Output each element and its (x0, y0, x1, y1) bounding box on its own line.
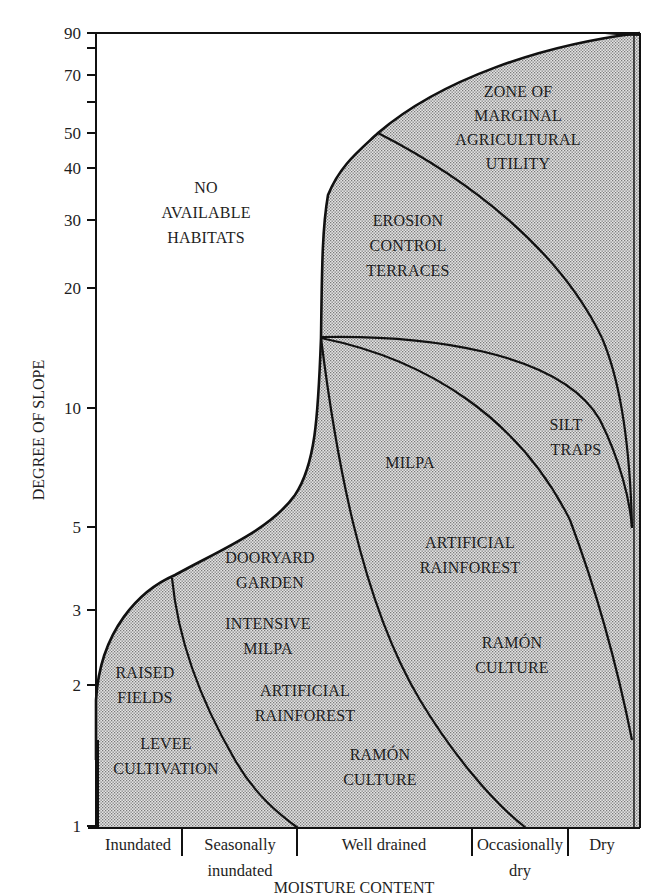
svg-text:CULTURE: CULTURE (343, 771, 417, 788)
region-erosion-control-terraces: EROSION CONTROL TERRACES (366, 212, 449, 279)
x-cat-seasonally-inundated-2: inundated (207, 861, 273, 880)
y-tick-90: 90 (64, 24, 81, 43)
svg-text:MILPA: MILPA (385, 454, 435, 471)
x-cat-dry: Dry (589, 835, 615, 854)
y-tick-1: 1 (73, 817, 82, 836)
svg-text:TERRACES: TERRACES (366, 262, 449, 279)
svg-text:INTENSIVE: INTENSIVE (225, 615, 310, 632)
x-cat-well-drained: Well drained (342, 835, 427, 854)
y-tick-2: 2 (73, 676, 82, 695)
y-tick-50: 50 (64, 124, 81, 143)
y-tick-3: 3 (73, 601, 82, 620)
y-tick-30: 30 (64, 211, 81, 230)
svg-text:ARTIFICIAL: ARTIFICIAL (260, 682, 350, 699)
svg-text:CONTROL: CONTROL (370, 237, 447, 254)
y-tick-10: 10 (64, 399, 81, 418)
svg-text:RAINFOREST: RAINFOREST (420, 559, 521, 576)
svg-text:RAMÓN: RAMÓN (350, 745, 411, 763)
svg-text:EROSION: EROSION (373, 212, 444, 229)
y-tick-5: 5 (73, 518, 82, 537)
svg-text:ARTIFICIAL: ARTIFICIAL (425, 534, 515, 551)
land-use-slope-moisture-chart: 90 70 50 40 30 20 10 5 3 2 1 DEGREE OF S… (0, 0, 668, 895)
svg-text:LEVEE: LEVEE (140, 735, 192, 752)
x-cat-occasionally-dry-1: Occasionally (477, 835, 564, 854)
svg-text:DOORYARD: DOORYARD (225, 549, 315, 566)
svg-text:UTILITY: UTILITY (486, 155, 551, 172)
svg-text:RAINFOREST: RAINFOREST (255, 707, 356, 724)
svg-text:ZONE OF: ZONE OF (484, 83, 553, 100)
svg-text:MARGINAL: MARGINAL (474, 107, 562, 124)
y-tick-20: 20 (64, 279, 81, 298)
region-no-available-habitats: NO AVAILABLE HABITATS (161, 179, 250, 246)
x-cat-seasonally-inundated-1: Seasonally (204, 835, 276, 854)
y-axis-ticks (87, 33, 96, 826)
svg-text:TRAPS: TRAPS (551, 441, 602, 458)
svg-text:HABITATS: HABITATS (167, 229, 245, 246)
svg-text:RAISED: RAISED (116, 664, 175, 681)
svg-text:RAMÓN: RAMÓN (482, 633, 543, 651)
y-tick-40: 40 (64, 159, 81, 178)
x-cat-inundated: Inundated (105, 835, 172, 854)
y-tick-70: 70 (64, 66, 81, 85)
x-cat-occasionally-dry-2: dry (509, 861, 532, 880)
svg-text:MILPA: MILPA (243, 640, 293, 657)
region-milpa: MILPA (385, 454, 435, 471)
y-tick-labels: 90 70 50 40 30 20 10 5 3 2 1 (64, 24, 81, 836)
svg-text:CULTIVATION: CULTIVATION (113, 760, 219, 777)
svg-text:AVAILABLE: AVAILABLE (161, 204, 250, 221)
svg-text:AGRICULTURAL: AGRICULTURAL (455, 131, 580, 148)
svg-text:FIELDS: FIELDS (117, 689, 172, 706)
y-axis-title: DEGREE OF SLOPE (30, 360, 47, 500)
svg-text:NO: NO (194, 179, 218, 196)
svg-text:GARDEN: GARDEN (236, 574, 304, 591)
x-axis-title: MOISTURE CONTENT (274, 879, 435, 895)
svg-text:CULTURE: CULTURE (475, 659, 549, 676)
svg-text:SILT: SILT (549, 416, 582, 433)
